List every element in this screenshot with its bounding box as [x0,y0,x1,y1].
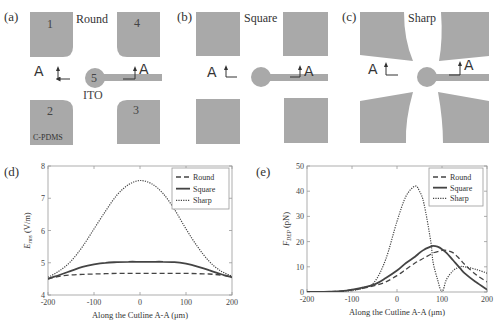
x-tick-label: 100 [436,295,448,304]
y-tick-label: 7 [41,194,45,203]
electrode-3-number: 3 [133,103,139,117]
legend-entry-square: Square [450,184,473,193]
ito-electrode [417,67,437,87]
ito-label: ITO [83,88,103,102]
panel-b: (b) Square A A [177,9,328,144]
y-axis-title: Erms (V/m) [22,212,33,250]
legend-entry-sharp: Sharp [193,196,212,205]
x-axis-title: Along the Cutline A-A (μm) [349,307,445,317]
y-tick-label: 8 [41,162,45,171]
chart-f-dep: (e) -200-100010020001020304050Along the … [256,162,493,317]
panel-e-label: (e) [256,164,270,179]
panel-c: (c) Sharp A A [342,9,489,143]
x-tick-label: 0 [138,298,142,307]
y-tick-label: 6 [41,227,45,236]
series-round [48,273,232,279]
electrode-2-number: 2 [47,104,53,118]
electrode-4 [439,12,489,61]
panel-a-title: Round [76,12,108,26]
cutline-a-right-label: A [304,63,314,79]
y-tick-label: 50 [296,162,304,171]
electrode-2 [196,99,240,144]
cutline-a-left-label: A [34,63,44,79]
x-tick-label: 0 [395,295,399,304]
figure: (a) Round 1 4 5 2 3 ITO C-PDMS A A (b) S… [0,0,502,323]
electrode-2 [360,92,413,143]
electrode-1-number: 1 [47,17,53,31]
legend-entry-round: Round [450,173,471,182]
cutline-a-left-label: A [207,64,217,80]
ito-electrode [251,67,271,87]
y-tick-label: 20 [296,238,304,247]
panel-a-label: (a) [4,9,18,24]
legend-entry-sharp: Sharp [450,194,469,203]
legend: RoundSquareSharp [429,168,483,206]
panel-c-label: (c) [342,9,356,24]
y-tick-label: 10 [296,263,304,272]
y-tick-label: 40 [296,187,304,196]
x-tick-label: 200 [226,298,238,307]
panel-b-title: Square [244,11,277,25]
electrode-1 [360,12,413,61]
series-square [307,246,487,292]
electrode-5-number: 5 [91,71,97,85]
series-square [48,262,232,279]
legend-entry-round: Round [193,173,214,182]
cutline-a-left-label: A [368,61,378,77]
x-tick-label: 100 [180,298,192,307]
panel-d-label: (d) [4,164,19,179]
panel-b-label: (b) [177,9,192,24]
cutline-a-right-label: A [139,61,149,77]
c-pdms-label: C-PDMS [33,133,63,142]
electrode-3 [284,98,328,143]
x-axis-title: Along the Cutline A-A (μm) [92,310,188,320]
y-axis-title: FDEP (pN) [281,212,292,247]
panel-c-title: Sharp [408,11,436,25]
y-tick-label: 4 [41,291,45,300]
legend: RoundSquareSharp [172,168,229,209]
electrode-4-number: 4 [134,16,140,30]
electrode-4 [283,12,328,56]
legend-entry-square: Square [193,185,216,194]
ito-lead [98,74,162,81]
chart-e-rms: (d) -200-100010020045678Along the Cutlin… [4,162,238,320]
electrode-1 [196,12,240,56]
x-tick-label: -100 [345,295,360,304]
y-tick-label: 5 [41,259,45,268]
x-tick-label: 200 [481,295,493,304]
cutline-a-right-label: A [464,57,474,73]
panel-a: (a) Round 1 4 5 2 3 ITO C-PDMS A A [4,9,162,145]
y-tick-label: 30 [296,212,304,221]
x-tick-label: -100 [87,298,102,307]
y-tick-label: 0 [300,288,304,297]
electrode-3 [438,92,489,143]
